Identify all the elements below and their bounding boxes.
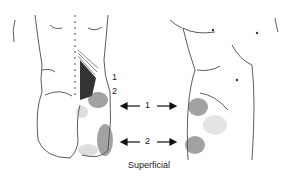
referred-pain-zone-1-front (188, 98, 208, 116)
arrow-label-2: 2 (145, 136, 150, 146)
referred-pain-zone-2-back (97, 124, 113, 156)
back-label-2: 2 (112, 86, 117, 96)
posterior-figure (13, 15, 110, 158)
caption: Superficial (128, 160, 170, 170)
arrow-label-1: 1 (145, 100, 150, 110)
referred-pain-zone-2-front (185, 136, 205, 154)
spine-markers (74, 15, 76, 95)
diagram (0, 0, 293, 182)
anterior-figure (170, 18, 278, 160)
back-label-1: 1 (112, 72, 117, 82)
referred-pain-zone-1-back (88, 92, 108, 108)
